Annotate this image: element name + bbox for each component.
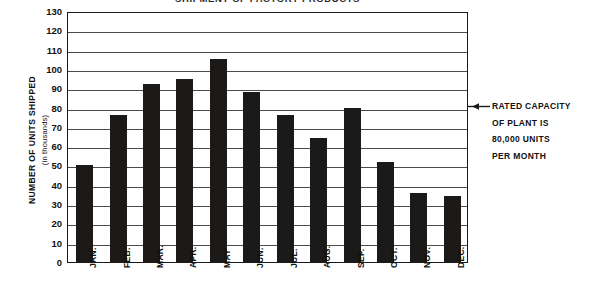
annotation-line-4: PER MONTH (492, 148, 593, 165)
y-tick-label: 70 (2, 123, 62, 133)
x-tick-label: MAR. (155, 222, 165, 268)
gridline (68, 187, 467, 188)
x-tick-label: FEB. (122, 222, 132, 268)
y-tick-label: 0 (2, 258, 62, 268)
y-tick-label: 50 (2, 161, 62, 171)
capacity-arrow-icon (468, 102, 492, 111)
y-tick-label: 40 (2, 181, 62, 191)
y-tick-label: 30 (2, 200, 62, 210)
y-tick-label: 90 (2, 84, 62, 94)
x-tick-label: JUL. (289, 222, 299, 268)
gridline (68, 110, 467, 111)
x-tick-label: NOV. (422, 222, 432, 268)
x-tick-label: JUN. (255, 222, 265, 268)
y-tick-label: 130 (2, 7, 62, 17)
bar-chart: SHIPMENT OF FACTORY PRODUCTS NUMBER OF U… (0, 0, 593, 302)
y-tick-label: 60 (2, 142, 62, 152)
x-tick-label: OCT. (389, 222, 399, 268)
x-tick-label: MAY (222, 222, 232, 268)
x-tick-label: JAN. (88, 222, 98, 268)
y-tick-label: 80 (2, 104, 62, 114)
y-axis-tick-labels: 1301201101009080706050403020100 (0, 0, 62, 302)
x-tick-label: APR. (188, 222, 198, 268)
y-tick-label: 100 (2, 65, 62, 75)
gridline (68, 52, 467, 53)
rated-capacity-annotation: RATED CAPACITY OF PLANT IS 80,000 UNITS … (492, 98, 593, 164)
y-tick-label: 120 (2, 26, 62, 36)
chart-title: SHIPMENT OF FACTORY PRODUCTS (67, 0, 468, 4)
y-tick-label: 110 (2, 46, 62, 56)
y-tick-label: 20 (2, 219, 62, 229)
gridline (68, 90, 467, 91)
x-tick-label: AUG. (322, 222, 332, 268)
gridline (68, 148, 467, 149)
x-tick-label: SEP. (356, 222, 366, 268)
annotation-line-3: 80,000 UNITS (492, 131, 593, 148)
annotation-line-1: RATED CAPACITY (492, 98, 593, 115)
x-tick-label: DEC. (456, 222, 466, 268)
annotation-line-2: OF PLANT IS (492, 115, 593, 132)
gridline (68, 206, 467, 207)
gridline (68, 32, 467, 33)
gridline (68, 71, 467, 72)
gridline (68, 129, 467, 130)
gridline (68, 167, 467, 168)
y-tick-label: 10 (2, 239, 62, 249)
